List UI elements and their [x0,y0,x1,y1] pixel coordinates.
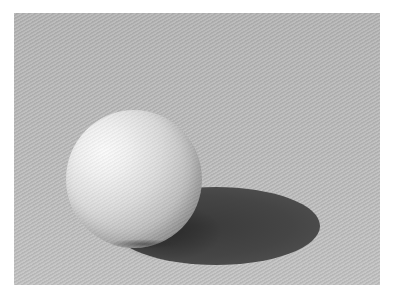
paper-background [14,13,380,285]
sphere [66,110,202,248]
contact-shadow [109,239,179,249]
